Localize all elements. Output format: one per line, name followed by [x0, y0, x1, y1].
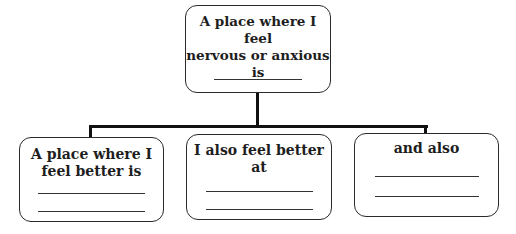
- child-node-better-place-title: A place where I feel better is: [20, 146, 163, 180]
- root-node: A place where I feel nervous or anxious …: [185, 5, 331, 93]
- answer-blank-1[interactable]: [375, 176, 479, 177]
- answer-blank-1[interactable]: [38, 193, 145, 194]
- answer-blank-1[interactable]: [206, 191, 313, 192]
- connector-root-down: [256, 92, 259, 128]
- child-node-and-also-title: and also: [355, 140, 498, 157]
- root-title-line1: A place where I feel: [186, 13, 330, 47]
- root-title-line2: nervous or anxious: [186, 47, 330, 64]
- root-answer-blank[interactable]: [214, 79, 302, 80]
- connector-horizontal: [89, 125, 428, 128]
- root-node-title: A place where I feel nervous or anxious …: [186, 13, 330, 81]
- child-node-also-better-at-title: I also feel better at: [187, 142, 331, 176]
- answer-blank-2[interactable]: [38, 211, 145, 212]
- title-line1: and also: [355, 140, 498, 157]
- child-node-better-place: A place where I feel better is: [19, 137, 164, 222]
- answer-blank-2[interactable]: [206, 209, 313, 210]
- title-line1: I also feel better: [187, 142, 331, 159]
- child-node-also-better-at: I also feel better at: [186, 134, 332, 220]
- child-node-and-also: and also: [354, 133, 499, 217]
- title-line2: at: [187, 159, 331, 176]
- answer-blank-2[interactable]: [375, 196, 479, 197]
- title-line2: feel better is: [20, 163, 163, 180]
- title-line1: A place where I: [20, 146, 163, 163]
